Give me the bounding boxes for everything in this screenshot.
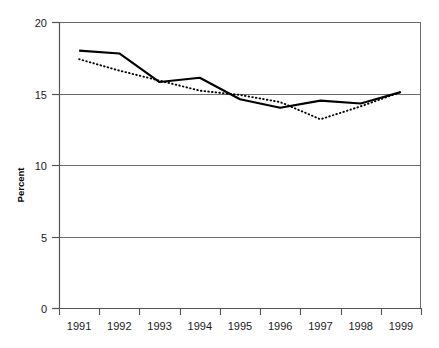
- x-tick-label-1998: 1998: [348, 320, 372, 332]
- y-axis-title: Percent: [15, 167, 26, 203]
- y-tick-label-0: 0: [41, 303, 47, 315]
- y-tick-label-10: 10: [35, 160, 47, 172]
- y-tick-label-15: 15: [35, 89, 47, 101]
- x-tick-label-1994: 1994: [188, 320, 212, 332]
- x-tick-label-1999: 1999: [389, 320, 413, 332]
- y-tick-label-5: 5: [41, 232, 47, 244]
- x-tick-label-1996: 1996: [268, 320, 292, 332]
- chart-background: [0, 0, 439, 348]
- x-tick-label-1997: 1997: [308, 320, 332, 332]
- chart-container: 20151050 1991199219931994199519961997199…: [0, 0, 439, 348]
- x-tick-label-1995: 1995: [228, 320, 252, 332]
- y-tick-label-20: 20: [35, 17, 47, 29]
- x-tick-label-1993: 1993: [147, 320, 171, 332]
- x-tick-label-1992: 1992: [107, 320, 131, 332]
- x-tick-label-1991: 1991: [67, 320, 91, 332]
- line-chart: 20151050 1991199219931994199519961997199…: [0, 0, 439, 348]
